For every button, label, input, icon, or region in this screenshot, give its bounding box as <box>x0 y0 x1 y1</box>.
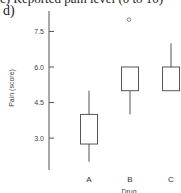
x-axis-title: Drug <box>121 188 136 193</box>
x-category-label: A <box>86 175 92 184</box>
x-category-labels: ABC <box>86 175 174 184</box>
outlier-point <box>127 18 131 22</box>
y-tick-label: 3.0 <box>34 135 44 142</box>
box-A <box>81 91 98 162</box>
y-ticks: 3.04.56.07.5 <box>34 28 54 142</box>
x-category-label: C <box>168 175 174 184</box>
x-category-label: B <box>127 175 132 184</box>
box-B <box>122 18 139 115</box>
boxes <box>81 18 180 162</box>
iqr-box <box>163 67 180 91</box>
box-C <box>163 43 180 90</box>
iqr-box <box>81 114 98 144</box>
y-tick-label: 6.0 <box>34 64 44 71</box>
y-tick-label: 4.5 <box>34 99 44 106</box>
box-plot: 3.04.56.07.5 Pain (score) ABC Drug <box>0 0 181 193</box>
y-tick-label: 7.5 <box>34 28 44 35</box>
y-axis-title: Pain (score) <box>8 69 16 107</box>
iqr-box <box>122 67 139 91</box>
